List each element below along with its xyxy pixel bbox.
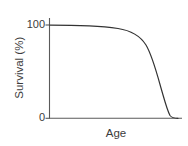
y-axis-tick-label-100: 100 bbox=[27, 19, 45, 30]
survivorship-curve-figure: 100 0 Survival (%) Age bbox=[0, 0, 188, 146]
x-axis-title: Age bbox=[50, 128, 182, 140]
survivorship-curve-line bbox=[50, 25, 178, 118]
y-axis-tick-label-0: 0 bbox=[39, 112, 45, 123]
y-axis-title: Survival (%) bbox=[14, 22, 26, 114]
